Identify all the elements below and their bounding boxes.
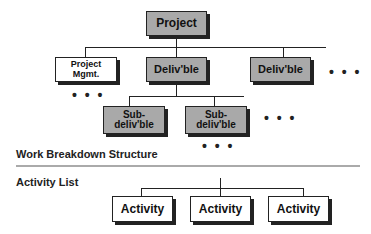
connector-sub1-vertical xyxy=(129,96,130,106)
node-sub-deliverable-2-line2: deliv'ble xyxy=(196,120,236,131)
wbs-diagram: Project Project Mgmt. Deliv'ble Deliv'bl… xyxy=(0,0,371,234)
node-deliverable-1: Deliv'ble xyxy=(146,57,207,82)
connector-activity2-vertical xyxy=(220,188,221,196)
node-activity-1-label: Activity xyxy=(121,203,164,216)
connector-root-vertical xyxy=(176,36,177,47)
node-activity-3: Activity xyxy=(268,196,329,222)
connector-level2-horizontal xyxy=(129,96,244,97)
connector-deliv1-down xyxy=(176,82,177,96)
node-project-label: Project xyxy=(156,17,197,30)
node-deliverable-2: Deliv'ble xyxy=(250,57,311,82)
connector-sub2-vertical xyxy=(214,96,215,106)
connector-deliv2-vertical xyxy=(283,47,284,57)
section-separator xyxy=(16,165,360,167)
connector-activity-horizontal xyxy=(141,188,304,189)
node-activity-1: Activity xyxy=(112,196,173,222)
connector-deliv1-vertical xyxy=(176,47,177,57)
node-activity-3-label: Activity xyxy=(277,203,320,216)
ellipsis-level2-more: • • • xyxy=(264,111,296,125)
connector-activity3-vertical xyxy=(303,188,304,196)
ellipsis-level1-more: • • • xyxy=(329,65,361,79)
ellipsis-project-mgmt-children: • • • xyxy=(72,88,104,102)
node-project: Project xyxy=(146,11,207,36)
node-deliverable-2-label: Deliv'ble xyxy=(258,64,303,76)
ellipsis-sub-deliverable-children: • • • xyxy=(202,139,234,153)
node-sub-deliverable-1: Sub- deliv'ble xyxy=(103,106,165,134)
node-project-mgmt: Project Mgmt. xyxy=(55,57,117,82)
section-label-activity-list: Activity List xyxy=(16,176,78,188)
connector-level1-horizontal xyxy=(85,47,326,48)
section-label-wbs: Work Breakdown Structure xyxy=(16,148,158,160)
node-project-mgmt-line2: Mgmt. xyxy=(73,70,100,79)
node-sub-deliverable-1-line2: deliv'ble xyxy=(114,120,154,131)
node-activity-2: Activity xyxy=(190,196,251,222)
connector-activity-stem xyxy=(220,178,221,188)
node-activity-2-label: Activity xyxy=(199,203,242,216)
connector-activity1-vertical xyxy=(141,188,142,196)
node-deliverable-1-label: Deliv'ble xyxy=(154,64,199,76)
node-sub-deliverable-2: Sub- deliv'ble xyxy=(185,106,247,134)
connector-pm-vertical xyxy=(85,47,86,57)
